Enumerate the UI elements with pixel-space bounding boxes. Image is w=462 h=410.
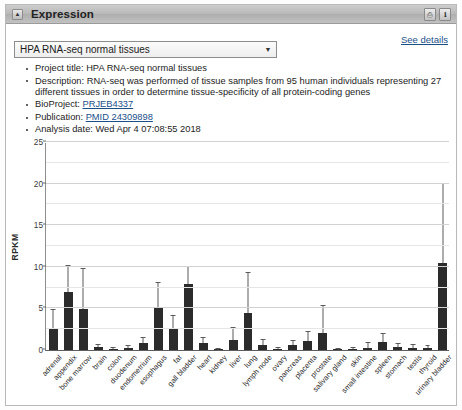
info-item-label: BioProject: (35, 99, 83, 109)
bar-group (214, 143, 223, 350)
chart-bar[interactable] (169, 329, 178, 350)
chart-bar[interactable] (273, 349, 282, 350)
chart-bar[interactable] (109, 349, 118, 350)
bar-group (273, 143, 282, 350)
chart-bar[interactable] (94, 347, 103, 350)
chart-bar[interactable] (378, 342, 387, 350)
error-bar-cap (380, 333, 385, 334)
chart-bar[interactable] (303, 341, 312, 350)
error-bar (427, 346, 428, 348)
chart-bar[interactable] (318, 333, 327, 350)
chart-bar[interactable] (363, 348, 372, 350)
grid-line-minor (46, 328, 449, 329)
error-bar (173, 316, 174, 329)
bar-group (378, 143, 387, 350)
chart-bar[interactable] (139, 343, 148, 350)
see-details-link[interactable]: See details (401, 34, 448, 45)
error-bar (98, 345, 99, 347)
error-bar-cap (320, 305, 325, 306)
error-bar (367, 343, 368, 347)
panel-titlebar: ▲ Expression ⎙ ℹ (6, 5, 456, 24)
y-axis-tick-mark (43, 141, 46, 142)
bar-group (124, 143, 133, 350)
bar-group (109, 143, 118, 350)
info-item-link[interactable]: PRJEB4337 (83, 99, 134, 109)
bar-group (229, 143, 238, 350)
y-axis-tick-label: 20 (20, 179, 46, 189)
dataset-select[interactable]: HPA RNA-seq normal tissues ▼ (14, 41, 277, 58)
info-item-label: Description: (35, 76, 87, 86)
info-item-label: Analysis date: (35, 124, 95, 134)
chart-bar[interactable] (393, 347, 402, 350)
info-item-link[interactable]: PMID 24309898 (86, 112, 153, 122)
error-bar (113, 348, 114, 349)
bar-group (94, 143, 103, 350)
info-item-value: RNA-seq was performed of tissue samples … (35, 76, 441, 97)
chart-plot-area: RPKM 0510152025 (45, 143, 449, 351)
error-bar (262, 340, 263, 345)
info-button[interactable]: ℹ (439, 8, 451, 21)
y-axis-tick-label: 25 (20, 137, 46, 147)
print-button[interactable]: ⎙ (424, 8, 436, 21)
chart-bar[interactable] (184, 284, 193, 350)
chart-bar[interactable] (124, 348, 133, 350)
grid-line (46, 183, 449, 184)
x-axis-labels: adrenalappendixbone marrowbraincolonduod… (45, 353, 449, 407)
y-axis-tick-mark (43, 307, 46, 308)
chart-bar[interactable] (408, 348, 417, 350)
x-axis-tick-label: brain (91, 353, 109, 372)
chart-bar[interactable] (423, 348, 432, 350)
bar-group (393, 143, 402, 350)
bar-group (438, 143, 447, 350)
triangle-up-icon[interactable]: ▲ (12, 9, 23, 20)
error-bar-cap (365, 342, 370, 343)
bar-group (244, 143, 253, 350)
error-bar-cap (216, 348, 221, 349)
bar-group (79, 143, 88, 350)
grid-line (46, 307, 449, 308)
bar-group (154, 143, 163, 350)
dataset-info-item: BioProject: PRJEB4337 (24, 99, 444, 110)
bar-group (423, 143, 432, 350)
chart-bar[interactable] (199, 343, 208, 350)
grid-line (46, 266, 449, 267)
error-bar (233, 328, 234, 340)
chevron-down-icon: ▼ (260, 46, 276, 53)
dataset-info-item: Publication: PMID 24309898 (24, 112, 444, 123)
error-bar (83, 269, 84, 309)
error-bar-cap (410, 344, 415, 345)
error-bar-cap (141, 337, 146, 338)
error-bar (203, 338, 204, 343)
bar-group (318, 143, 327, 350)
see-details-row: See details (401, 29, 448, 47)
bar-group (49, 143, 58, 350)
chart-bar[interactable] (258, 345, 267, 350)
chart-bar[interactable] (288, 345, 297, 350)
bar-group (169, 143, 178, 350)
error-bar (143, 338, 144, 344)
y-axis-tick-label: 5 (20, 303, 46, 313)
expression-bar-chart: RPKM 0510152025 adrenalappendixbone marr… (14, 135, 454, 407)
chart-bar[interactable] (64, 292, 73, 350)
chart-bar[interactable] (49, 328, 58, 350)
error-bar (277, 348, 278, 349)
bar-group (64, 143, 73, 350)
y-axis-tick-label: 15 (20, 220, 46, 230)
error-bar-cap (246, 272, 251, 273)
expression-panel-root: ▲ Expression ⎙ ℹ See details HPA RNA-seq… (0, 0, 462, 410)
error-bar (128, 346, 129, 348)
grid-line-minor (46, 203, 449, 204)
error-bar (307, 332, 308, 341)
bar-group (139, 143, 148, 350)
chart-bar[interactable] (229, 340, 238, 350)
chart-bar[interactable] (79, 309, 88, 350)
expression-panel: ▲ Expression ⎙ ℹ See details HPA RNA-seq… (5, 4, 457, 406)
error-bar (382, 334, 383, 341)
error-bar-cap (51, 309, 56, 310)
y-axis-label: RPKM (10, 233, 20, 260)
error-bar-cap (96, 344, 101, 345)
bar-group (184, 143, 193, 350)
bar-group (258, 143, 267, 350)
chart-bar[interactable] (244, 313, 253, 350)
grid-line-minor (46, 162, 449, 163)
